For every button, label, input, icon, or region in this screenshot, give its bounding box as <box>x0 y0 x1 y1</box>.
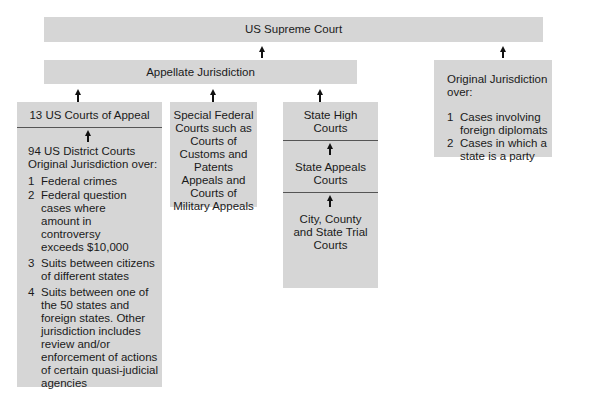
special-federal-courts-box: Special Federal Courts such as Courts of… <box>170 102 257 207</box>
district-courts-section: 94 US District Courts Original Jurisdict… <box>28 145 158 390</box>
original-jurisdiction-heading: Original Jurisdiction over: <box>447 73 552 99</box>
list-item: 2Cases in which a state is a party <box>447 137 552 163</box>
divider <box>283 140 378 141</box>
courts-of-appeal-label: 13 US Courts of Appeal <box>17 108 162 122</box>
district-jurisdiction-list: 1Federal crimes 2Federal question cases … <box>28 175 158 390</box>
list-item: 4Suits between one of the 50 states and … <box>28 286 158 390</box>
district-courts-heading: 94 US District Courts <box>28 145 158 158</box>
trial-courts-label: City, County and State Trial Courts <box>293 213 368 252</box>
original-jurisdiction-list: 1Cases involving foreign diplomats 2Case… <box>447 111 552 163</box>
special-federal-courts-label: Special Federal Courts such as Courts of… <box>173 109 254 213</box>
district-jurisdiction-heading: Original Jurisdiction over: <box>28 158 158 171</box>
state-high-courts-label: State High Courts <box>301 109 360 135</box>
state-appeals-courts-label: State Appeals Courts <box>285 161 376 187</box>
appellate-jurisdiction-label: Appellate Jurisdiction <box>146 66 255 78</box>
divider <box>283 192 378 193</box>
list-item: 1Cases involving foreign diplomats <box>447 111 552 137</box>
original-jurisdiction-box: Original Jurisdiction over: 1Cases invol… <box>434 60 552 157</box>
courts-of-appeal-box: 13 US Courts of Appeal 94 US District Co… <box>17 102 162 387</box>
supreme-court-box: US Supreme Court <box>44 17 543 42</box>
list-item: 1Federal crimes <box>28 175 158 188</box>
divider <box>17 127 162 128</box>
state-courts-box: State High Courts State Appeals Courts C… <box>283 102 378 288</box>
supreme-court-label: US Supreme Court <box>245 23 342 35</box>
list-item: 3Suits between citizens of different sta… <box>28 257 158 283</box>
appellate-jurisdiction-box: Appellate Jurisdiction <box>44 60 357 84</box>
list-item: 2Federal question cases where amount in … <box>28 189 158 254</box>
